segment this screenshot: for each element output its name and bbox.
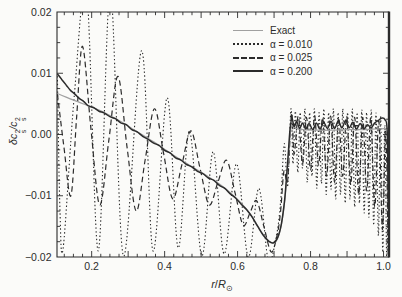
legend-label: α = 0.025 (270, 52, 312, 63)
x-axis-label: r/R⊙ (162, 278, 282, 293)
y-axis-supsub: 2s (15, 130, 29, 134)
y-tick-label: 0.02 (31, 6, 52, 18)
axis-ticks (57, 12, 389, 257)
y-tick-label: 0.01 (31, 67, 52, 79)
axes-frame (57, 12, 389, 257)
legend-label: Exact (270, 25, 295, 36)
y-tick-label: 0.00 (31, 128, 52, 140)
x-tick-label: 0.4 (157, 260, 172, 272)
dotted-line-swatch (233, 43, 263, 45)
exact-line-swatch (233, 30, 263, 31)
x-tick-label: 0.2 (84, 260, 99, 272)
series-line-exact (57, 94, 389, 244)
solid-line-swatch (233, 70, 263, 72)
legend: Exact α = 0.010 α = 0.025 α = 0.200 (233, 24, 312, 78)
x-tick-label: 0.6 (230, 260, 245, 272)
y-axis-label: δc2s/c2s (7, 90, 21, 172)
y-tick-label: −0.01 (25, 189, 52, 201)
y-tick-label: −0.02 (25, 251, 52, 263)
x-tick-label: 1.0 (376, 260, 391, 272)
plot-canvas: 0.20.40.60.81.00.020.010.00−0.01−0.02 (0, 0, 402, 297)
x-tick-label: 0.8 (303, 260, 318, 272)
dashed-line-swatch (233, 57, 263, 59)
plot-frame (57, 12, 389, 258)
y-axis-supsub: 2s (15, 117, 29, 121)
series-line-alpha-0025 (57, 46, 388, 256)
legend-label: α = 0.200 (270, 66, 312, 77)
series-line-alpha-0010 (57, 0, 388, 262)
legend-item-alpha-0010: α = 0.010 (233, 38, 312, 52)
y-axis-label-text: δc (7, 134, 19, 145)
legend-label: α = 0.010 (270, 39, 312, 50)
legend-item-alpha-0200: α = 0.200 (233, 65, 312, 79)
legend-item-alpha-0025: α = 0.025 (233, 51, 312, 65)
data-series (57, 0, 389, 262)
sound-speed-inversion-figure: 0.20.40.60.81.00.020.010.00−0.01−0.02 δc… (0, 0, 402, 297)
tick-labels: 0.20.40.60.81.00.020.010.00−0.01−0.02 (25, 6, 391, 273)
sun-symbol: ⊙ (226, 284, 233, 293)
legend-item-exact: Exact (233, 24, 312, 38)
